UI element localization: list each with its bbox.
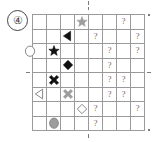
grid-cell-r7-c6[interactable]	[103, 102, 117, 117]
question-mark: ?	[108, 90, 112, 99]
grid-cell-r5-c1[interactable]	[33, 73, 47, 88]
question-mark: ?	[136, 104, 140, 113]
gray-x-cross-icon	[62, 88, 74, 100]
grid-cell-r6-c3[interactable]	[61, 88, 75, 103]
grid-cell-r1-c6[interactable]	[103, 15, 117, 30]
grid-cell-r7-c4[interactable]	[75, 102, 89, 117]
black-left-triangle-icon	[62, 30, 74, 42]
black-x-cross-icon	[48, 74, 60, 86]
grid-cell-r8-c6[interactable]	[103, 117, 117, 132]
grid-cell-r2-c3[interactable]	[61, 30, 75, 45]
grid-cell-r5-c3[interactable]	[61, 73, 75, 88]
grid-cell-r5-c7[interactable]: ?	[117, 73, 131, 88]
grid-cell-r2-c2[interactable]	[47, 30, 61, 45]
grid-cell-r6-c8[interactable]	[131, 88, 145, 103]
grid-cell-r8-c2[interactable]	[47, 117, 61, 132]
grid-cell-r4-c5[interactable]	[89, 59, 103, 74]
grid-cell-r4-c1[interactable]	[33, 59, 47, 74]
grid-cell-r4-c6[interactable]: ?	[103, 59, 117, 74]
grid-cell-r7-c8[interactable]: ?	[131, 102, 145, 117]
grid-cell-r5-c2[interactable]	[47, 73, 61, 88]
grid-cell-r3-c1[interactable]	[33, 44, 47, 59]
question-mark: ?	[94, 119, 98, 128]
grid-cell-r2-c4[interactable]	[75, 30, 89, 45]
grid-cell-r7-c3[interactable]	[61, 102, 75, 117]
grid-cell-r7-c1[interactable]	[33, 102, 47, 117]
grid-cell-r2-c8[interactable]: ?	[131, 30, 145, 45]
grid-cell-r6-c1[interactable]	[33, 88, 47, 103]
registration-mark-top-icon	[88, 1, 89, 5]
grid-cell-r6-c5[interactable]	[89, 88, 103, 103]
grid-cell-r6-c6[interactable]: ?	[103, 88, 117, 103]
grid-cell-r5-c8[interactable]	[131, 73, 145, 88]
grid-cell-r4-c7[interactable]	[117, 59, 131, 74]
grid-cell-r2-c7[interactable]	[117, 30, 131, 45]
grid-cell-r3-c3[interactable]	[61, 44, 75, 59]
grid-cell-r8-c8[interactable]	[131, 117, 145, 132]
white-diamond-icon	[76, 103, 88, 115]
grid-cell-r3-c5[interactable]	[89, 44, 103, 59]
gray-oval-icon	[48, 117, 60, 129]
grid-cell-r7-c2[interactable]	[47, 102, 61, 117]
grid-cell-r6-c4[interactable]	[75, 88, 89, 103]
grid-cell-r2-c1[interactable]	[33, 30, 47, 45]
grid-cell-r3-c6[interactable]: ?	[103, 44, 117, 59]
grid-cell-r2-c6[interactable]	[103, 30, 117, 45]
grid-cell-r1-c7[interactable]: ?	[117, 15, 131, 30]
grid-cell-r5-c6[interactable]: ?	[103, 73, 117, 88]
grid-cell-r3-c7[interactable]	[117, 44, 131, 59]
question-mark: ?	[94, 104, 98, 113]
puzzle-panel: ④ ?????????????	[0, 0, 156, 142]
question-mark: ?	[108, 75, 112, 84]
grid-cell-r1-c8[interactable]	[131, 15, 145, 30]
grid-cell-r5-c5[interactable]	[89, 73, 103, 88]
registration-mark-bottom-icon	[88, 134, 89, 138]
gray-star-icon	[76, 16, 88, 28]
grid-cell-r6-c7[interactable]: ?	[117, 88, 131, 103]
question-mark: ?	[122, 75, 126, 84]
grid-cell-r2-c5[interactable]: ?	[89, 30, 103, 45]
registration-mark-top-lower-icon	[88, 7, 89, 10]
question-mark: ?	[108, 46, 112, 55]
grid-cell-r1-c3[interactable]	[61, 15, 75, 30]
puzzle-grid[interactable]: ?????????????	[32, 14, 145, 131]
registration-mark-right-icon	[147, 72, 151, 73]
grid-cell-r8-c7[interactable]	[117, 117, 131, 132]
white-left-triangle-icon	[34, 88, 46, 100]
registration-mark-left-icon	[26, 72, 30, 73]
panel-number-label: ④	[7, 10, 28, 31]
grid-cell-r8-c1[interactable]	[33, 117, 47, 132]
question-mark: ?	[136, 32, 140, 41]
black-diamond-icon	[62, 59, 74, 71]
question-mark: ?	[108, 61, 112, 70]
registration-mark-bottom-right-icon	[148, 129, 150, 131]
grid-cell-r3-c2[interactable]	[47, 44, 61, 59]
question-mark: ?	[122, 17, 126, 26]
grid-cell-r7-c5[interactable]: ?	[89, 102, 103, 117]
grid-cell-r8-c3[interactable]	[61, 117, 75, 132]
grid-cell-r4-c8[interactable]	[131, 59, 145, 74]
grid-cell-r1-c2[interactable]	[47, 15, 61, 30]
registration-mark-top-right-icon	[148, 14, 150, 16]
question-mark: ?	[122, 90, 126, 99]
grid-cell-r3-c4[interactable]	[75, 44, 89, 59]
grid-cell-r4-c2[interactable]	[47, 59, 61, 74]
grid-cell-r1-c4[interactable]	[75, 15, 89, 30]
grid-cell-r3-c8[interactable]: ?	[131, 44, 145, 59]
grid-cell-r8-c5[interactable]: ?	[89, 117, 103, 132]
grid-cell-r1-c5[interactable]	[89, 15, 103, 30]
grid-cell-r6-c2[interactable]	[47, 88, 61, 103]
grid-cell-r8-c4[interactable]	[75, 117, 89, 132]
black-star-icon	[48, 45, 60, 57]
grid-cell-r4-c3[interactable]	[61, 59, 75, 74]
question-mark: ?	[136, 46, 140, 55]
grid-cell-r5-c4[interactable]	[75, 73, 89, 88]
grid-cell-r4-c4[interactable]	[75, 59, 89, 74]
question-mark: ?	[94, 32, 98, 41]
grid-cell-r7-c7[interactable]	[117, 102, 131, 117]
grid-cell-r1-c1[interactable]	[33, 15, 47, 30]
